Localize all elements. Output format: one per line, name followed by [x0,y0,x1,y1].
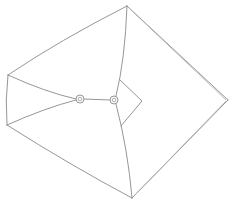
connecting-string [84,99,110,100]
outer-edge-left [6,75,8,125]
inner-flap [120,80,142,126]
outer-edge-bottom-left [7,125,132,198]
fastener-left-icon [76,95,84,103]
outer-edge-top-right-inner [129,8,226,100]
fold-line-top [116,6,127,96]
fastener-right-icon [110,96,118,104]
fold-line-upper-left [8,75,76,99]
diagram-canvas [0,0,234,207]
folded-shape-drawing [0,0,234,207]
outer-edge-bottom-right-inner [134,101,226,196]
outer-edge-top-left [8,6,127,75]
fold-line-lower-left [7,100,76,125]
fold-line-bottom [116,104,132,198]
